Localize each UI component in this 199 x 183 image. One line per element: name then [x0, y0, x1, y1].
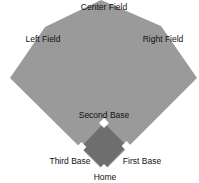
first-base-label: First Base: [123, 157, 161, 166]
right-field-label: Right Field: [143, 35, 184, 44]
third-base-label: Third Base: [49, 157, 90, 166]
center-field-label: Center Field: [81, 3, 127, 12]
home-label: Home: [94, 173, 117, 182]
baseball-field-diagram: [0, 0, 199, 183]
second-base-label: Second Base: [79, 111, 130, 120]
left-field-label: Left Field: [26, 35, 61, 44]
